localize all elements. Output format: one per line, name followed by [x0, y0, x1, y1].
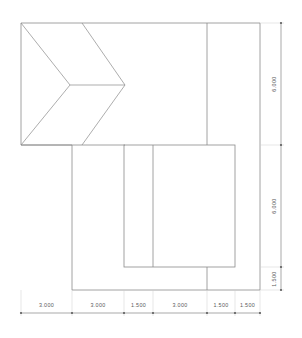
inner-room-rectangle: [124, 145, 235, 267]
right-dim-tick: [280, 266, 282, 268]
bottom-dim-tick: [152, 312, 154, 314]
plan-svg-canvas: [0, 0, 302, 338]
hip-roof-group: [21, 23, 125, 145]
bottom-dim-tick: [206, 312, 208, 314]
hip-line-top-left: [21, 23, 70, 85]
building-outline-group: [21, 23, 260, 290]
right-dim-tick: [280, 289, 282, 291]
bottom-dim-tick: [123, 312, 125, 314]
right-dim-tick: [280, 144, 282, 146]
bottom-dim-tick: [20, 312, 22, 314]
dimension-label-right-1: 6.000: [272, 76, 277, 91]
dimension-label-bottom-3: 1.500: [131, 303, 146, 308]
dimension-label-bottom-1: 3.000: [39, 303, 54, 308]
dimension-label-bottom-6: 1.500: [240, 303, 255, 308]
bottom-dim-tick: [71, 312, 73, 314]
bottom-dim-tick: [234, 312, 236, 314]
interior-walls-group: [21, 23, 207, 290]
dimension-label-bottom-2: 3.000: [90, 303, 105, 308]
hip-line-bottom-left: [21, 85, 70, 145]
dimension-label-right-3: 1.500: [272, 271, 277, 286]
bottom-dim-tick: [259, 312, 261, 314]
architectural-plan-drawing: 3.000 3.000 1.500 3.000 1.500 1.500 6.00…: [0, 0, 302, 338]
dimension-label-right-2: 6.000: [272, 198, 277, 213]
right-dim-tick: [280, 22, 282, 24]
hip-line-top-right: [82, 23, 125, 85]
hip-line-bottom-right: [82, 85, 125, 145]
inner-room-group: [124, 145, 235, 267]
right-dimension-chain: [260, 22, 284, 291]
building-outer-outline: [21, 23, 260, 290]
dimension-label-bottom-4: 3.000: [172, 303, 187, 308]
dimension-label-bottom-5: 1.500: [213, 303, 228, 308]
